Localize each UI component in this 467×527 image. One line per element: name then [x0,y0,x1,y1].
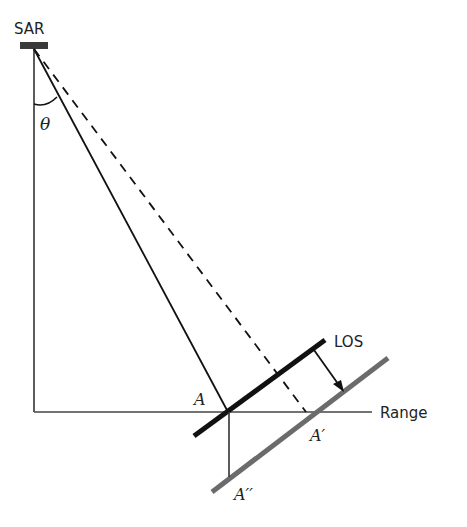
point-a-double-prime-label: A′′ [232,485,253,504]
point-a-prime-label: A′ [308,426,326,445]
theta-label: θ [40,114,50,134]
angle-arc [34,97,57,105]
sar-label: SAR [14,20,44,38]
range-label: Range [380,404,428,422]
dashed-slant-line [34,49,306,412]
slant-range-line [34,49,228,412]
sar-geometry-diagram: SAR θ LOS Range A A′ A′′ [0,0,467,527]
los-label: LOS [334,333,363,351]
sar-sensor-icon [20,42,48,49]
point-a-label: A [192,390,206,409]
shifted-wavefront-line [212,358,388,492]
los-arrow-head-icon [333,380,344,392]
